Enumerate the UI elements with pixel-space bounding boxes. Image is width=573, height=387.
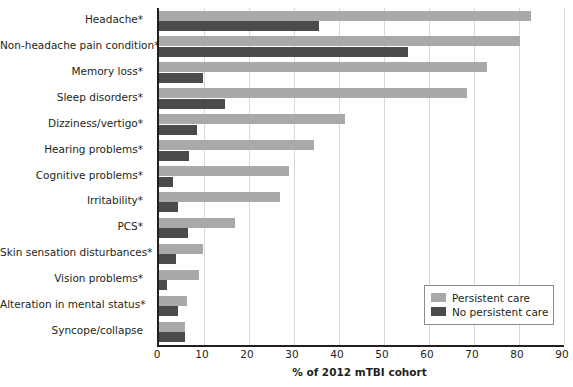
chart-legend: Persistent care No persistent care	[424, 285, 554, 325]
legend-swatch-persistent-care	[431, 293, 446, 302]
bar-row	[159, 112, 564, 138]
legend-label-persistent-care: Persistent care	[452, 292, 530, 304]
bar-no-persistent-care	[159, 47, 408, 57]
bar-chart: Headache*Non-headache pain condition*Mem…	[0, 0, 573, 387]
bar-no-persistent-care	[159, 228, 188, 238]
bar-row	[159, 60, 564, 86]
gridline-90	[564, 8, 565, 345]
x-tick-label: 0	[154, 348, 161, 360]
bar-persistent-care	[159, 114, 345, 124]
bar-row	[159, 86, 564, 112]
bar-persistent-care	[159, 11, 531, 21]
bar-row	[159, 8, 564, 34]
bar-persistent-care	[159, 218, 235, 228]
bar-no-persistent-care	[159, 151, 189, 161]
category-label: Skin sensation disturbances*	[0, 246, 149, 258]
bar-no-persistent-care	[159, 332, 185, 342]
x-tick-label: 50	[375, 348, 388, 360]
bar-persistent-care	[159, 88, 467, 98]
x-tick-label: 60	[420, 348, 433, 360]
bar-persistent-care	[159, 62, 487, 72]
bar-no-persistent-care	[159, 73, 203, 83]
legend-item-persistent-care: Persistent care	[431, 291, 547, 304]
category-axis-labels: Headache*Non-headache pain condition*Mem…	[0, 8, 153, 345]
x-axis-ticks: 0102030405060708090	[157, 348, 562, 364]
bar-no-persistent-care	[159, 125, 197, 135]
bar-row	[159, 164, 564, 190]
x-tick-label: 70	[465, 348, 478, 360]
x-tick-label: 20	[240, 348, 253, 360]
bar-no-persistent-care	[159, 21, 319, 31]
bar-persistent-care	[159, 322, 185, 332]
category-label: Alteration in mental status*	[0, 298, 149, 310]
bar-no-persistent-care	[159, 202, 178, 212]
category-label: Syncope/collapse	[0, 324, 149, 336]
bar-persistent-care	[159, 244, 203, 254]
bar-no-persistent-care	[159, 99, 225, 109]
bar-persistent-care	[159, 192, 280, 202]
x-tick-label: 10	[195, 348, 208, 360]
x-tick-label: 30	[285, 348, 298, 360]
category-label: Headache*	[0, 13, 149, 25]
bar-no-persistent-care	[159, 177, 173, 187]
bar-row	[159, 241, 564, 267]
x-tick-label: 90	[555, 348, 568, 360]
category-label: Memory loss*	[0, 65, 149, 77]
bar-row	[159, 138, 564, 164]
bar-row	[159, 34, 564, 60]
bar-persistent-care	[159, 36, 520, 46]
bar-persistent-care	[159, 166, 289, 176]
category-label: Hearing problems*	[0, 143, 149, 155]
category-label: Non-headache pain condition*	[0, 39, 149, 51]
bar-persistent-care	[159, 140, 314, 150]
bar-row	[159, 189, 564, 215]
legend-item-no-persistent-care: No persistent care	[431, 305, 547, 318]
category-label: Vision problems*	[0, 272, 149, 284]
bar-no-persistent-care	[159, 254, 176, 264]
bar-row	[159, 215, 564, 241]
x-tick-label: 40	[330, 348, 343, 360]
category-label: Cognitive problems*	[0, 169, 149, 181]
category-label: Sleep disorders*	[0, 91, 149, 103]
bar-persistent-care	[159, 296, 187, 306]
category-label: Dizziness/vertigo*	[0, 117, 149, 129]
x-tick-label: 80	[510, 348, 523, 360]
category-label: PCS*	[0, 220, 149, 232]
bar-no-persistent-care	[159, 306, 178, 316]
bar-no-persistent-care	[159, 280, 167, 290]
category-label: Irritability*	[0, 194, 149, 206]
x-axis-title: % of 2012 mTBI cohort	[157, 366, 562, 378]
legend-swatch-no-persistent-care	[431, 307, 446, 316]
legend-label-no-persistent-care: No persistent care	[452, 306, 548, 318]
bar-persistent-care	[159, 270, 199, 280]
